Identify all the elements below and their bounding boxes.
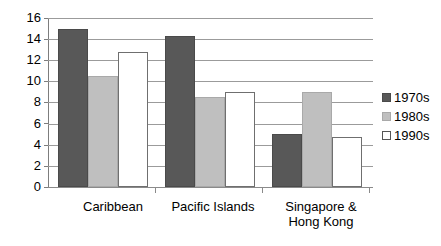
legend-label: 1990s (394, 129, 429, 142)
y-axis-tick-label: 14 (1, 32, 41, 45)
legend-label: 1970s (394, 91, 429, 104)
bar-singapore-hong-kong-1990s (332, 137, 362, 187)
y-axis-tick-label: 16 (1, 11, 41, 24)
legend-item-1970s: 1970s (382, 88, 441, 107)
y-axis-tick-label: 6 (1, 117, 41, 130)
bar-group-pacific-islands (165, 18, 255, 187)
x-axis-tick (262, 188, 263, 193)
legend-swatch-icon (382, 93, 391, 102)
y-axis-tick-label: 8 (1, 95, 41, 108)
y-axis-tick-label: 10 (1, 74, 41, 87)
bar-pacific-islands-1990s (225, 92, 255, 187)
bar-caribbean-1980s (88, 76, 118, 187)
category-label-line: Caribbean (58, 199, 168, 214)
x-axis-tick (369, 188, 370, 193)
legend-item-1980s: 1980s (382, 107, 441, 126)
y-axis-tick-label: 12 (1, 53, 41, 66)
bar-group-caribbean (58, 18, 148, 187)
x-axis-line (48, 187, 373, 188)
y-axis-labels: 16 14 12 10 8 6 4 2 0 (0, 0, 41, 246)
legend: 1970s 1980s 1990s (382, 88, 441, 145)
bar-singapore-hong-kong-1970s (272, 134, 302, 187)
bar-caribbean-1970s (58, 29, 88, 187)
bar-pacific-islands-1980s (195, 97, 225, 187)
bar-chart: 16 14 12 10 8 6 4 2 0 (0, 0, 441, 246)
legend-swatch-icon (382, 112, 391, 121)
x-axis-category-label-caribbean: Caribbean (58, 199, 168, 214)
legend-item-1990s: 1990s (382, 126, 441, 145)
legend-label: 1980s (394, 110, 429, 123)
bar-group-singapore-hong-kong (272, 18, 362, 187)
category-label-line: Pacific Islands (158, 199, 268, 214)
category-label-line: Singapore & (266, 199, 376, 214)
x-axis-category-label-singapore-hong-kong: Singapore & Hong Kong (266, 199, 376, 229)
legend-swatch-icon (382, 131, 391, 140)
bar-caribbean-1990s (118, 52, 148, 187)
bar-singapore-hong-kong-1980s (302, 92, 332, 187)
bar-pacific-islands-1970s (165, 36, 195, 187)
x-axis-category-label-pacific-islands: Pacific Islands (158, 199, 268, 214)
y-axis-tick-label: 2 (1, 159, 41, 172)
x-axis-tick (155, 188, 156, 193)
y-axis-tick-label: 0 (1, 180, 41, 193)
category-label-line: Hong Kong (266, 214, 376, 229)
plot-area (48, 18, 373, 187)
y-axis-tick-label: 4 (1, 138, 41, 151)
